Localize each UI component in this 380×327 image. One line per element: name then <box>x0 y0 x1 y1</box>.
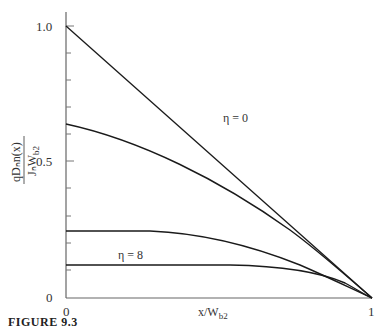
curve-intermediate-upper <box>66 124 372 298</box>
figure-caption: FIGURE 9.3 <box>8 315 78 327</box>
y-ticks <box>66 26 74 270</box>
x-tick-label-1: 1 <box>368 304 375 319</box>
curve-eta-8 <box>66 265 372 298</box>
x-axis-label: x/Wb2 <box>198 305 228 321</box>
y-axis-label-numerator: qDₙn(x) <box>9 142 23 182</box>
label-eta-8: η = 8 <box>118 248 143 262</box>
curve-eta-0 <box>66 26 372 298</box>
y-axis-label: qDₙn(x) JₙWb2 <box>9 136 41 184</box>
y-tick-label-1: 1.0 <box>36 19 52 34</box>
y-axis-label-denominator: JₙWb2 <box>25 146 41 176</box>
y-tick-label-0: 0 <box>46 290 53 305</box>
chart-canvas: 1.0 0.5 0 0 1 qDₙn(x) JₙWb2 x/Wb2 η = 0 … <box>0 0 380 327</box>
label-eta-0: η = 0 <box>223 111 248 125</box>
